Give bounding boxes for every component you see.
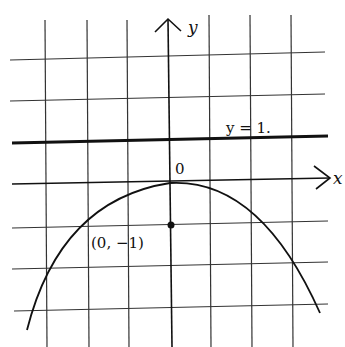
x-axis-label: x [333,168,343,188]
origin-label: 0 [175,160,185,178]
directrix-label: y = 1. [225,119,271,137]
diagram-canvas: y x 0 y = 1. (0, −1) [0,0,345,347]
x-axis [12,166,330,189]
focus-point [168,222,175,229]
y-axis-label: y [187,17,198,37]
focus-label: (0, −1) [91,234,144,252]
